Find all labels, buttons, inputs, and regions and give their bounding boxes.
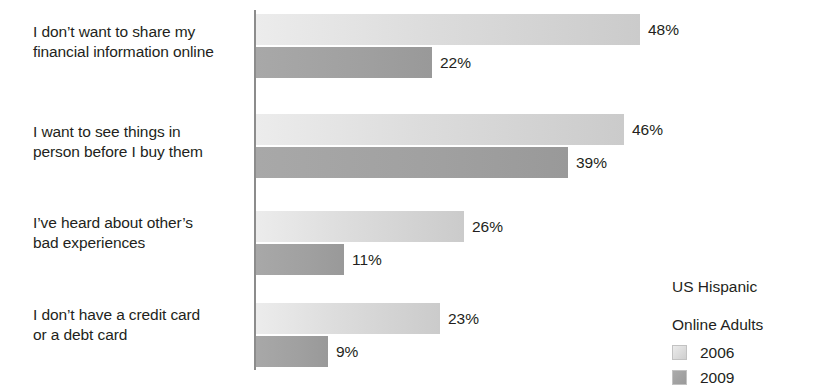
- category-label-2-line1: I’ve heard about other’s: [33, 214, 193, 231]
- bar-value-2009-2: 11%: [352, 244, 382, 275]
- bar-2009-2: [256, 244, 344, 275]
- bar-2006-1: [256, 114, 624, 145]
- legend-title-line2: Online Adults: [672, 316, 763, 333]
- bar-2009-0: [256, 47, 432, 78]
- legend-title: US Hispanic Online Adults: [672, 258, 812, 334]
- legend-label-2006: 2006: [700, 344, 734, 361]
- legend-label-2009: 2009: [700, 369, 734, 386]
- bar-value-2009-3: 9%: [336, 336, 358, 367]
- bar-2009-1: [256, 147, 568, 178]
- bar-2006-3: [256, 303, 440, 334]
- bar-2009-3: [256, 336, 328, 367]
- legend-item-2009[interactable]: 2009: [672, 365, 812, 390]
- category-label-1-line1: I want to see things in: [33, 123, 181, 140]
- legend-item-2006[interactable]: 2006: [672, 340, 812, 365]
- category-label-0-line2: financial information online: [33, 43, 214, 60]
- category-axis-labels: I don’t want to share my financial infor…: [0, 0, 250, 391]
- legend-swatch-2009-icon: [672, 370, 687, 385]
- bar-chart: I don’t want to share my financial infor…: [0, 0, 819, 391]
- category-label-2: I’ve heard about other’s bad experiences: [33, 213, 248, 253]
- bar-2006-0: [256, 14, 640, 45]
- bar-value-2006-2: 26%: [472, 211, 503, 242]
- category-label-3: I don’t have a credit card or a debt car…: [33, 305, 248, 345]
- bar-value-2009-0: 22%: [440, 47, 471, 78]
- legend-swatch-2006-icon: [672, 345, 687, 360]
- category-label-0-line1: I don’t want to share my: [33, 23, 195, 40]
- legend-title-line1: US Hispanic: [672, 278, 757, 295]
- category-label-3-line2: or a debt card: [33, 326, 127, 343]
- legend: US Hispanic Online Adults 2006 2009: [672, 258, 812, 390]
- category-label-1-line2: person before I buy them: [33, 143, 203, 160]
- category-label-2-line2: bad experiences: [33, 234, 145, 251]
- bar-2006-2: [256, 211, 464, 242]
- bar-value-2009-1: 39%: [576, 147, 607, 178]
- category-label-0: I don’t want to share my financial infor…: [33, 22, 248, 62]
- bar-value-2006-1: 46%: [632, 114, 663, 145]
- bar-value-2006-3: 23%: [448, 303, 479, 334]
- bar-value-2006-0: 48%: [648, 14, 679, 45]
- category-label-1: I want to see things in person before I …: [33, 122, 248, 162]
- category-label-3-line1: I don’t have a credit card: [33, 306, 200, 323]
